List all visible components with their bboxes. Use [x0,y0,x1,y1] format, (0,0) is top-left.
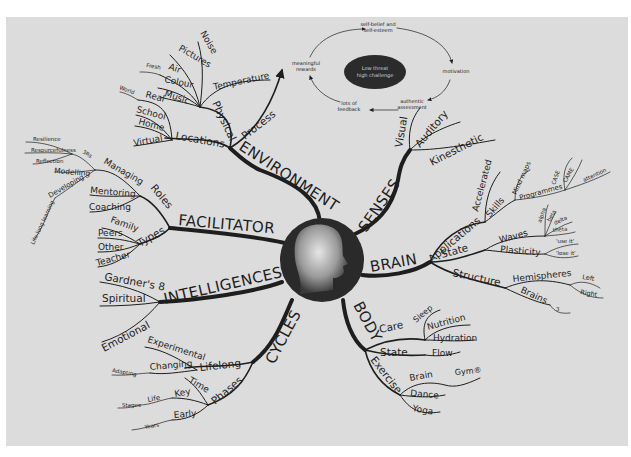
cycle-node-feedback: feedback [338,106,361,112]
leaf-fresh[interactable]: Fresh [146,62,162,71]
leaf-developing[interactable]: Developing [47,173,85,200]
leaf-temperature[interactable]: Temperature [211,70,270,92]
leaf-lose-it[interactable]: 'lose it' [556,250,576,256]
leaf-managing[interactable]: Managing [102,156,145,187]
line [550,305,570,313]
cycle-arrow [428,80,450,100]
cycle-node-rewards: rewards [296,66,316,72]
node-locations[interactable]: Locations [175,129,226,149]
leaf-waves[interactable]: Waves [498,228,529,245]
node-process[interactable]: Process [239,108,278,142]
leaf-gym[interactable]: Gym® [454,366,481,377]
leaf-reflection[interactable]: Reflection [36,158,64,164]
leaf-use-it[interactable]: 'use it' [556,238,574,244]
leaf-changing[interactable]: Changing [149,358,193,372]
node-structure[interactable]: Structure [452,266,502,288]
leaf-theta[interactable]: theta [553,226,568,233]
motivation-cycle: Low threat high challenge self-belief an… [292,21,470,112]
leaf-mentoring[interactable]: Mentoring [90,185,136,199]
leaf-emotional[interactable]: Emotional [99,318,151,353]
node-state[interactable]: State [380,346,408,358]
brain-subtree: Applications State Structure Accelerated… [426,158,610,313]
leaf-peers[interactable]: Peers [98,228,123,238]
leaf-right[interactable]: Right [580,288,599,299]
facilitator-subtree: Roles Types Managing Mentoring Coaching … [25,136,176,268]
leaf-spiritual[interactable]: Spiritual [102,292,146,304]
leaf-dance[interactable]: Dance [410,388,440,400]
branch-environment[interactable]: ENVIRONMENT [236,137,343,215]
leaf-key[interactable]: Key [174,386,192,399]
line [570,282,600,288]
cycle-arrow [310,29,365,57]
cycle-arrow [310,76,340,102]
leaf-came[interactable]: CAME [562,166,575,183]
leaf-hydration[interactable]: Hydration [433,333,477,343]
leaf-colour[interactable]: Colour [164,74,195,90]
leaf-auditory[interactable]: Auditory [412,107,450,149]
cycle-node-self-belief: self-esteem [363,27,392,33]
leaf-brains-count[interactable]: 3 [556,306,560,312]
center-node [280,218,364,302]
leaf-other[interactable]: Other [98,242,124,252]
node-roles[interactable]: Roles [148,182,175,211]
leaf-air[interactable]: Air [167,61,182,75]
node-exercise[interactable]: Exercise [368,354,404,396]
node-lifelong[interactable]: Lifelong [199,357,242,373]
leaf-resourcefulness[interactable]: Resourcefulness [31,147,76,153]
leaf-brain-gym[interactable]: Brain [409,369,434,383]
cycle-arrow [397,28,452,63]
leaf-kinesthetic[interactable]: Kinesthetic [427,130,485,167]
leaf-yoga[interactable]: Yoga [411,403,434,417]
leaf-early[interactable]: Early [173,408,197,420]
cycle-node-authentic-assessment: assessment [397,104,427,110]
leaf-world[interactable]: World [119,84,136,95]
leaf-alpha[interactable]: alpha [536,207,548,224]
leaf-3rs[interactable]: 3Rs [82,149,94,159]
leaf-plasticity[interactable]: Plasticity [500,244,542,258]
cycle-center-label: high challenge [357,72,394,79]
leaf-nutrition[interactable]: Nutrition [426,312,467,332]
leaf-brains[interactable]: Brains [519,285,549,306]
cycle-node-motivation: motivation [443,68,470,74]
leaf-stages[interactable]: Stages [122,402,141,409]
leaf-coaching[interactable]: Coaching [89,202,131,212]
leaf-virtual[interactable]: Virtual [133,133,164,148]
leaf-hemispheres[interactable]: Hemispheres [512,268,572,284]
leaf-flow[interactable]: Flow [432,348,453,358]
leaf-resilience[interactable]: Resilience [33,136,61,142]
line [545,232,575,236]
cycle-center-label: Low threat [362,65,389,71]
node-care[interactable]: Care [378,318,404,335]
body-subtree: Care State Exercise Sleep Nutrition Hydr… [365,303,482,416]
leaf-gardners-8[interactable]: Gardner's 8 [104,270,166,292]
node-applications[interactable]: Applications [426,214,483,264]
node-phases[interactable]: Phases [209,374,245,407]
leaf-life[interactable]: Life [147,394,161,404]
environment-subtree: Locations Physical Process Noise Picture… [119,29,282,150]
leaf-left[interactable]: Left [582,273,596,283]
mind-map: Low threat high challenge self-belief an… [0,0,631,457]
leaf-modelling[interactable]: Modelling [54,166,91,178]
branch-senses[interactable]: SENSES [355,175,404,235]
leaf-years[interactable]: Years [143,422,159,431]
leaf-adapting[interactable]: Adapting [112,367,138,378]
cycles-subtree: Lifelong Phases Experimental Changing Ad… [112,334,253,430]
leaf-noise[interactable]: Noise [198,29,219,56]
line [172,398,208,405]
line [140,72,160,75]
branch-cycles[interactable]: CYCLES [262,307,305,367]
senses-subtree: Visual Auditory Kinesthetic [392,107,495,167]
leaf-visual[interactable]: Visual [392,115,409,148]
leaf-lifelong-learning[interactable]: Life-long learning [29,199,56,245]
